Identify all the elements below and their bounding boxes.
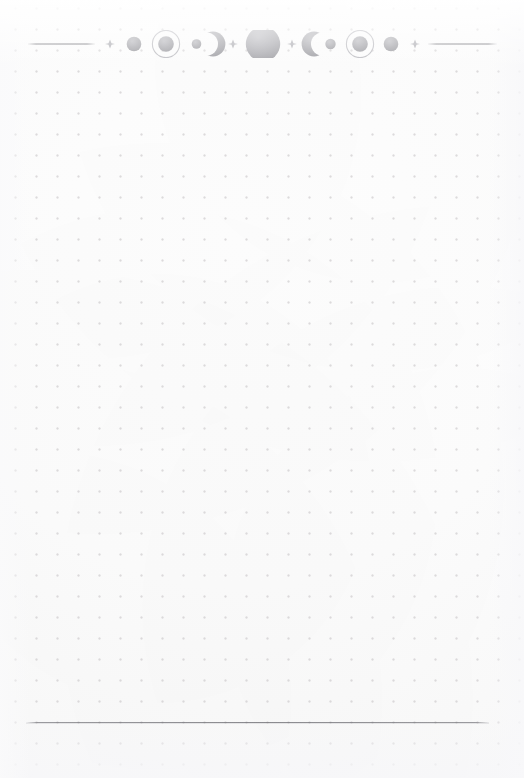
moon-full-ringed-icon xyxy=(346,30,373,57)
footer-rule-shadow xyxy=(26,723,489,724)
sparkle-icon xyxy=(410,39,420,48)
moon-waxing-crescent-icon xyxy=(201,32,226,57)
moon-new-dot-icon xyxy=(192,39,202,49)
paper-background xyxy=(0,0,524,778)
moon-new-dot-icon xyxy=(325,39,335,49)
moon-phase-divider xyxy=(0,30,524,58)
moon-full-ringed-icon xyxy=(152,30,179,57)
ornament-left-rule xyxy=(28,43,95,44)
footer-rule xyxy=(26,722,489,723)
sparkle-icon xyxy=(228,39,238,48)
ornament-right-rule xyxy=(428,43,497,44)
moon-waning-crescent-icon xyxy=(302,32,327,57)
sparkle-icon xyxy=(105,39,115,48)
journal-page xyxy=(0,0,524,778)
moon-waxing-gibbous-icon xyxy=(127,37,142,52)
moon-waxing-gibbous-icon xyxy=(384,37,399,52)
sparkle-icon xyxy=(287,40,297,49)
moon-full-large-icon xyxy=(246,30,280,58)
